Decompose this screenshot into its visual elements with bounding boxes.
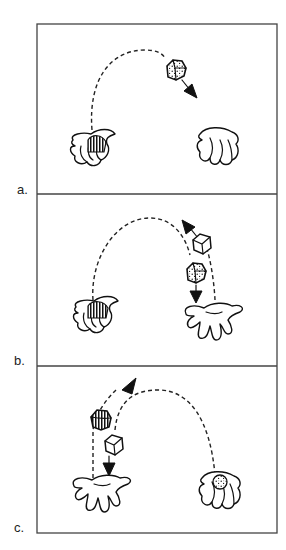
trajectory-b-arc — [93, 218, 190, 300]
panel-label-b: b. — [14, 353, 25, 368]
arrow-up-icon — [182, 220, 198, 238]
speckled-ball-icon — [187, 263, 206, 283]
left-hand-holding-striped-ball — [71, 130, 116, 166]
left-hand-holding-striped-ball — [74, 297, 119, 333]
right-hand-empty — [197, 128, 238, 165]
panel-b — [74, 218, 243, 340]
speckled-ball-icon — [167, 60, 186, 80]
trajectory-c-arc — [115, 390, 215, 475]
trajectory-a — [92, 50, 165, 130]
figure-frame — [37, 24, 277, 533]
arrow-down-icon — [103, 456, 115, 476]
right-hand-open — [185, 303, 242, 340]
right-hand-holding-speckled-ball — [199, 472, 240, 509]
panel-label-c: c. — [14, 520, 24, 535]
arrow-up-icon — [122, 378, 136, 394]
arrow-down-icon — [182, 80, 197, 98]
arrow-down-icon — [190, 285, 202, 303]
panel-a — [71, 50, 239, 166]
striped-ball-icon — [91, 410, 111, 430]
panel-c — [73, 378, 240, 512]
left-hand-open — [73, 475, 130, 512]
juggling-diagram — [0, 0, 286, 550]
plain-ball-icon — [105, 435, 123, 455]
panel-label-a: a. — [17, 182, 28, 197]
